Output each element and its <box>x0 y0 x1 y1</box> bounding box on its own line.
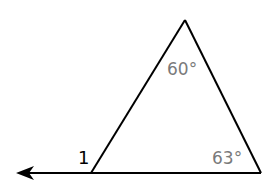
triangle-left-side <box>91 20 185 173</box>
exterior-angle-label: 1 <box>78 147 89 168</box>
apex-angle-label: 60° <box>167 59 197 79</box>
triangle-diagram: 60° 63° 1 <box>0 0 275 195</box>
right-angle-label: 63° <box>212 148 242 168</box>
